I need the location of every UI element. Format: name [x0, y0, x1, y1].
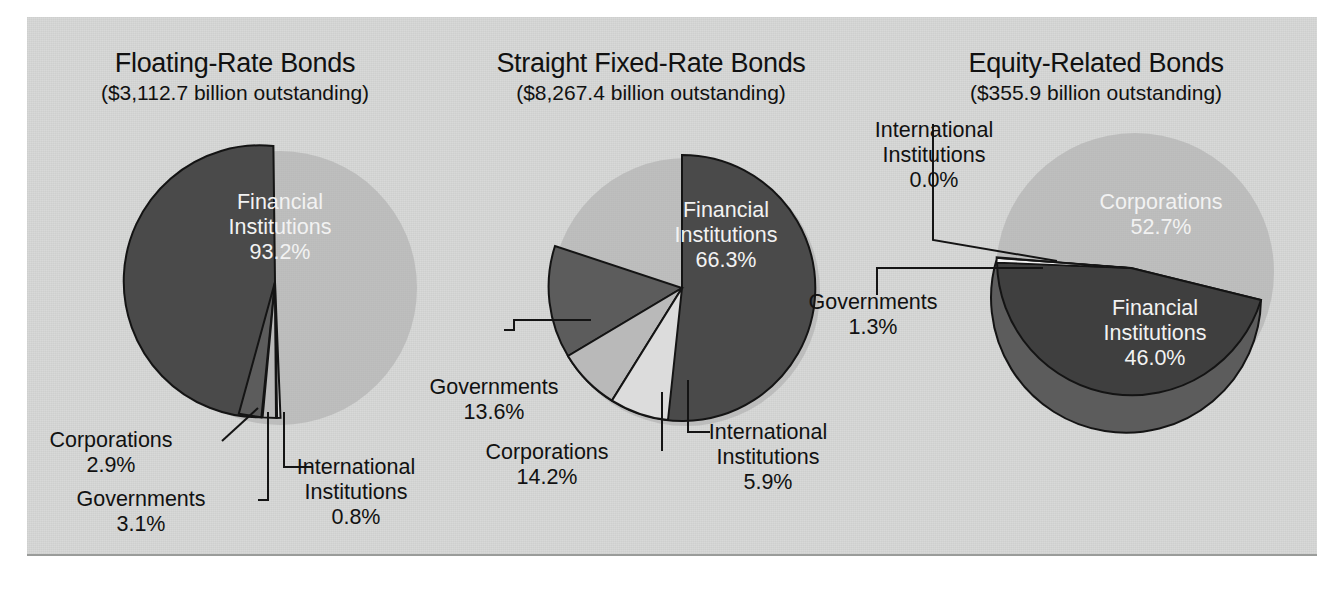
- outer-label-value: 0.0%: [841, 168, 1027, 193]
- pie-chart-floating-rate: Floating-Rate Bonds ($3,112.7 billion ou…: [0, 0, 470, 537]
- outer-label-line2: Institutions: [668, 445, 868, 470]
- inner-label-value: 52.7%: [1041, 215, 1281, 240]
- inner-label-corporations: Corporations 52.7%: [1041, 190, 1281, 240]
- inner-label-line1: Financial: [1035, 296, 1275, 321]
- outer-label-governments: Governments 13.6%: [394, 375, 594, 425]
- inner-label-line1: Financial: [596, 198, 856, 223]
- inner-label-line1: Financial: [150, 190, 410, 215]
- inner-label-line2: Institutions: [596, 223, 856, 248]
- inner-label-name: Corporations: [1041, 190, 1281, 215]
- outer-label-value: 14.2%: [442, 465, 652, 490]
- inner-label-value: 66.3%: [596, 248, 856, 273]
- outer-label-name: Corporations: [442, 440, 652, 465]
- inner-label-financial-institutions: Financial Institutions 46.0%: [1035, 296, 1275, 371]
- outer-label-international-institutions: International Institutions 5.9%: [668, 420, 868, 495]
- inner-label-financial-institutions: Financial Institutions 66.3%: [596, 198, 856, 273]
- inner-label-value: 93.2%: [150, 240, 410, 265]
- inner-label-value: 46.0%: [1035, 346, 1275, 371]
- outer-label-value: 13.6%: [394, 400, 594, 425]
- outer-label-name: Governments: [36, 487, 246, 512]
- pie-chart-straight-fixed-rate: Straight Fixed-Rate Bonds ($8,267.4 bill…: [416, 0, 886, 537]
- outer-label-line1: International: [668, 420, 868, 445]
- outer-label-value: 5.9%: [668, 470, 868, 495]
- outer-label-name: Governments: [394, 375, 594, 400]
- figure-page: Floating-Rate Bonds ($3,112.7 billion ou…: [0, 0, 1331, 596]
- outer-label-corporations: Corporations 2.9%: [6, 428, 216, 478]
- outer-label-line2: Institutions: [841, 143, 1027, 168]
- outer-label-value: 1.3%: [773, 315, 973, 340]
- outer-label-governments: Governments 3.1%: [36, 487, 246, 537]
- outer-label-name: Corporations: [6, 428, 216, 453]
- inner-label-line2: Institutions: [150, 215, 410, 240]
- outer-label-name: Governments: [773, 290, 973, 315]
- pie-chart-equity-related: Equity-Related Bonds ($355.9 billion out…: [861, 0, 1331, 537]
- outer-label-value: 3.1%: [36, 512, 246, 537]
- inner-label-line2: Institutions: [1035, 321, 1275, 346]
- outer-label-international-institutions: International Institutions 0.0%: [841, 118, 1027, 193]
- pie-3-graphic: [861, 0, 1331, 537]
- outer-label-value: 2.9%: [6, 453, 216, 478]
- panel-bottom-rule: [27, 554, 1317, 556]
- inner-label-financial-institutions: Financial Institutions 93.2%: [150, 190, 410, 265]
- outer-label-governments: Governments 1.3%: [773, 290, 973, 340]
- outer-label-line1: International: [841, 118, 1027, 143]
- outer-label-corporations: Corporations 14.2%: [442, 440, 652, 490]
